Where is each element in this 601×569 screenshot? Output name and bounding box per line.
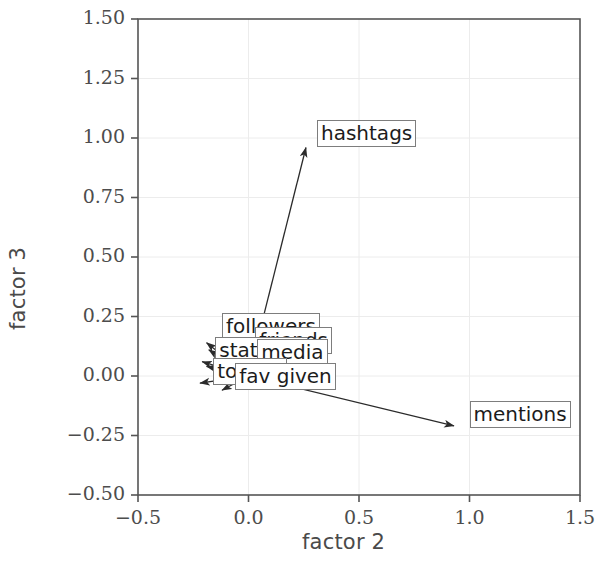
y-axis-title: factor 3: [6, 247, 30, 330]
point-label-fav-given: fav given: [235, 363, 336, 390]
x-tick-label: −0.5: [108, 506, 168, 528]
factor-biplot-figure: factor 3 factor 2 −0.50.00.51.01.51.501.…: [0, 0, 601, 569]
x-tick-label: 0.5: [329, 506, 389, 528]
point-label-mentions: mentions: [470, 401, 571, 428]
y-tick-label: 0.50: [45, 244, 125, 266]
tick-marks: [131, 19, 580, 502]
y-tick-label: −0.50: [45, 482, 125, 504]
x-tick-label: 1.5: [550, 506, 601, 528]
y-tick-label: −0.25: [45, 423, 125, 445]
y-tick-label: 0.75: [45, 185, 125, 207]
y-tick-label: 0.25: [45, 304, 125, 326]
point-label-hashtags: hashtags: [317, 120, 416, 147]
x-tick-label: 1.0: [440, 506, 500, 528]
y-tick-label: 1.50: [45, 6, 125, 28]
x-tick-label: 0.0: [219, 506, 279, 528]
y-tick-label: 1.25: [45, 66, 125, 88]
y-tick-label: 0.00: [45, 363, 125, 385]
y-tick-label: 1.00: [45, 125, 125, 147]
x-axis-title: factor 2: [302, 530, 385, 554]
